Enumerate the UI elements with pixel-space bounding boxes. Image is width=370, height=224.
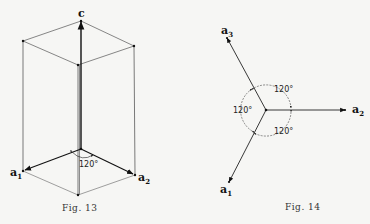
vector-a1 bbox=[25, 149, 81, 170]
angle-label-a3-a2: 120° bbox=[274, 85, 293, 94]
cell-vertical-edges bbox=[23, 41, 135, 195]
origin-point bbox=[265, 109, 268, 112]
vector-a1 bbox=[229, 110, 266, 182]
cell-vertices bbox=[22, 20, 136, 196]
label-a1: a1 bbox=[220, 183, 232, 198]
figures-canvas: 120° c a1 a2 Fig. 13 120° 120° 120° a3 a… bbox=[0, 0, 370, 224]
cell-top-face bbox=[23, 21, 134, 65]
cell-bottom-face bbox=[23, 171, 135, 195]
label-a3: a3 bbox=[221, 24, 233, 39]
angle-label: 120° bbox=[79, 160, 98, 169]
vector-a3 bbox=[227, 38, 266, 110]
label-a2: a2 bbox=[138, 171, 150, 186]
label-a2: a2 bbox=[352, 103, 364, 118]
caption-fig14: Fig. 14 bbox=[285, 202, 321, 212]
caption-fig13: Fig. 13 bbox=[62, 203, 98, 213]
label-c: c bbox=[78, 7, 85, 20]
label-a1: a1 bbox=[10, 166, 22, 181]
angle-label-a1-a3: 120° bbox=[233, 106, 252, 115]
angle-label-a2-a1: 120° bbox=[274, 127, 293, 136]
figure-14: 120° 120° 120° a3 a2 a1 Fig. 14 bbox=[220, 24, 364, 212]
figure-13: 120° c a1 a2 Fig. 13 bbox=[10, 7, 150, 213]
